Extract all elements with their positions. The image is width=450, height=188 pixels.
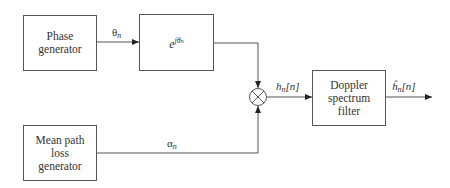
signal-arg: [n] [402,80,416,92]
signal-sub: n [173,142,177,151]
block-label: filter [338,105,360,117]
theta-signal-label: θn [112,26,121,40]
phase-generator-block: Phasegenerator [23,15,97,71]
block-label: spectrum [328,92,370,104]
multiplier-icon [250,89,267,106]
signal-sub: n [117,31,121,40]
block-label: Mean path [36,134,85,146]
block-label: loss [51,147,69,159]
exp-exponent-sub: n [181,38,184,44]
exponential-block: ejθn [139,14,214,71]
block-label: generator [38,43,81,55]
block-label: generator [38,160,81,172]
mean-path-loss-block: Mean pathlossgenerator [23,125,97,181]
h-hat-signal-label: ĥn[n] [392,80,416,94]
block-label: Phase [47,30,74,42]
alpha-signal-label: αn [167,137,177,151]
h-signal-label: hn[n] [276,80,300,94]
block-label: Doppler [330,79,368,91]
signal-arg: [n] [286,80,300,92]
doppler-spectrum-filter-block: Dopplerspectrumfilter [312,70,386,126]
